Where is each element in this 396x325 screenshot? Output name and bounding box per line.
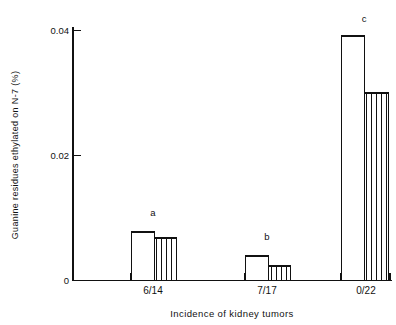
group-letter-a: a bbox=[150, 207, 156, 218]
x-tick-label: 6/14 bbox=[143, 285, 163, 296]
chart-figure: Guanine residues ethylated on N-7 (%) 0 … bbox=[0, 0, 396, 325]
bar-hatched-b bbox=[269, 266, 291, 281]
bar-open-c bbox=[342, 36, 365, 281]
x-tick-label: 0/22 bbox=[356, 285, 376, 296]
bar-open-b bbox=[246, 256, 269, 281]
bar-open-a bbox=[132, 232, 155, 281]
y-axis-label: Guanine residues ethylated on N-7 (%) bbox=[10, 71, 20, 240]
y-tick-label: 0 bbox=[64, 275, 69, 286]
x-axis-title: Incidence of kidney tumors bbox=[170, 308, 293, 319]
chart-background bbox=[0, 0, 396, 325]
bar-hatched-a bbox=[155, 238, 177, 281]
chart-svg: Guanine residues ethylated on N-7 (%) 0 … bbox=[0, 0, 396, 325]
bar-hatched-c bbox=[365, 93, 389, 281]
group-letter-c: c bbox=[362, 13, 367, 24]
y-tick-label: 0.04 bbox=[51, 25, 70, 36]
x-tick-label: 7/17 bbox=[257, 285, 277, 296]
y-tick-label: 0.02 bbox=[51, 150, 70, 161]
group-letter-b: b bbox=[264, 231, 269, 242]
